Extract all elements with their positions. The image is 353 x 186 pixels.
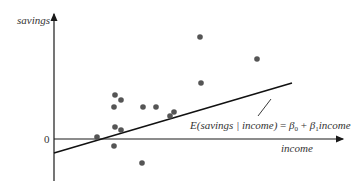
data-point bbox=[112, 92, 118, 98]
data-point bbox=[112, 124, 118, 130]
data-point bbox=[94, 134, 100, 140]
origin-label: 0 bbox=[44, 134, 50, 145]
data-point bbox=[167, 113, 173, 119]
equation-variable: income bbox=[319, 119, 351, 131]
data-point bbox=[198, 80, 204, 86]
regression-equation: E(savings | income) = β0 + β1income bbox=[190, 120, 351, 133]
regression-line bbox=[54, 83, 292, 153]
equation-plus: + bbox=[298, 119, 310, 131]
data-point bbox=[118, 127, 124, 133]
data-point bbox=[111, 143, 117, 149]
y-axis-label: savings bbox=[17, 15, 50, 26]
data-point bbox=[153, 104, 159, 110]
data-point bbox=[118, 97, 124, 103]
scatter-diagram bbox=[0, 0, 353, 186]
data-point bbox=[197, 34, 203, 40]
data-point bbox=[140, 104, 146, 110]
equation-lhs: E(savings | income) bbox=[190, 119, 277, 131]
data-point bbox=[139, 160, 145, 166]
data-point bbox=[111, 104, 117, 110]
x-axis-label: income bbox=[281, 143, 313, 154]
equation-leader-line bbox=[258, 99, 271, 116]
data-point bbox=[171, 109, 177, 115]
equation-equals: = bbox=[277, 119, 289, 131]
data-point bbox=[254, 56, 260, 62]
